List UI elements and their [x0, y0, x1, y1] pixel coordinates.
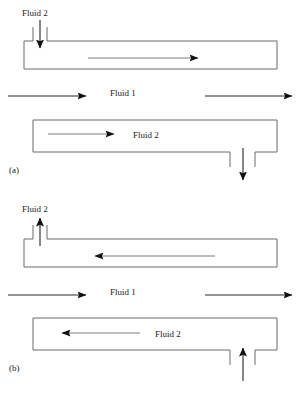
panel-b-outlet-label: Fluid 2 [22, 205, 48, 214]
panel-a-lower-channel-label: Fluid 2 [133, 131, 159, 140]
panel-a-upper-channel [24, 27, 277, 69]
diagram-svg [0, 0, 301, 396]
panel-b-upper-channel [24, 225, 277, 267]
panel-b-lower-channel-label: Fluid 2 [155, 330, 181, 339]
panel-a-fluid1-label: Fluid 1 [110, 89, 136, 98]
panel-a-lower-channel [33, 120, 277, 167]
figure-canvas: Fluid 2 Fluid 1 Fluid 2 (a) Fluid 2 Flui… [0, 0, 301, 396]
panel-b-caption: (b) [9, 364, 20, 373]
panel-a-inlet-label: Fluid 2 [22, 9, 48, 18]
panel-b-lower-channel [33, 318, 277, 365]
panel-b-fluid1-label: Fluid 1 [110, 288, 136, 297]
panel-a-caption: (a) [9, 166, 19, 175]
